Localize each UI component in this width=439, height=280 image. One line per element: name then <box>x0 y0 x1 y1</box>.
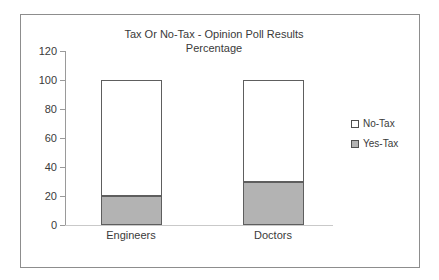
bar-segment-doctors-no-tax[interactable] <box>243 80 304 182</box>
legend-entry-no-tax[interactable]: No-Tax <box>351 119 421 129</box>
y-tick-label-80: 80 <box>23 103 57 115</box>
y-tick-label-120: 120 <box>23 45 57 57</box>
bar-segment-engineers-yes-tax[interactable] <box>101 196 162 225</box>
bar-group-doctors <box>243 15 304 223</box>
bar-segment-doctors-yes-tax[interactable] <box>243 182 304 225</box>
stacked-bar-engineers[interactable] <box>101 80 162 225</box>
legend-label-yes-tax: Yes-Tax <box>363 139 398 149</box>
legend-swatch-yes-tax-icon <box>351 140 359 148</box>
bar-segment-engineers-no-tax[interactable] <box>101 80 162 196</box>
y-tick-label-60: 60 <box>23 132 57 144</box>
y-tick-label-20: 20 <box>23 190 57 202</box>
category-label-doctors: Doctors <box>218 229 328 241</box>
value-axis-line <box>65 51 66 226</box>
category-label-engineers: Engineers <box>76 229 186 241</box>
category-axis-line <box>65 225 333 226</box>
stacked-bar-doctors[interactable] <box>243 80 304 225</box>
chart-frame: Tax Or No-Tax - Opinion Poll Results Per… <box>20 14 420 268</box>
y-tick-label-0: 0 <box>23 219 57 231</box>
legend-label-no-tax: No-Tax <box>363 119 395 129</box>
y-tick-label-40: 40 <box>23 161 57 173</box>
value-axis: 120 100 80 60 40 20 0 <box>21 15 57 269</box>
legend-entry-yes-tax[interactable]: Yes-Tax <box>351 139 421 149</box>
chart-legend: No-Tax Yes-Tax <box>351 119 421 159</box>
legend-swatch-no-tax-icon <box>351 120 359 128</box>
y-tick-label-100: 100 <box>23 74 57 86</box>
bar-group-engineers <box>101 15 162 223</box>
